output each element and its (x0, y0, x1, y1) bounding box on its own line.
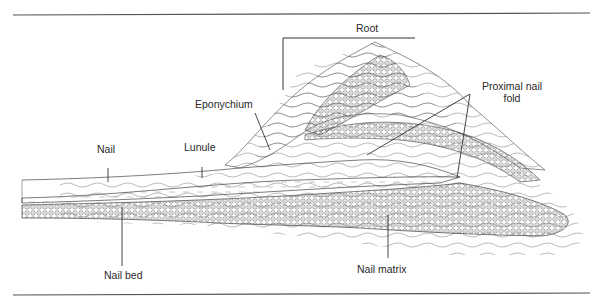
label-nail-matrix: Nail matrix (357, 263, 407, 275)
top-rule (13, 13, 590, 15)
label-root: Root (356, 22, 378, 34)
label-eponychium: Eponychium (195, 98, 253, 110)
label-nail-bed: Nail bed (104, 269, 143, 281)
label-proximal-nail-fold-line2: fold (472, 92, 552, 104)
label-proximal-nail-fold-line1: Proximal nail (472, 80, 552, 92)
label-nail: Nail (97, 143, 115, 155)
label-lunule: Lunule (184, 141, 216, 153)
label-proximal-nail-fold: Proximal nail fold (472, 80, 552, 104)
nail-anatomy-illustration (0, 0, 606, 303)
bottom-rule (13, 293, 590, 295)
